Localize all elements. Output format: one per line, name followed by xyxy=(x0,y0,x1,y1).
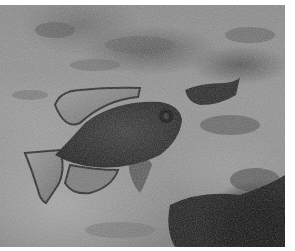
photo-grain xyxy=(0,5,285,247)
photo-scene xyxy=(0,5,285,247)
underwater-photo xyxy=(0,5,285,247)
